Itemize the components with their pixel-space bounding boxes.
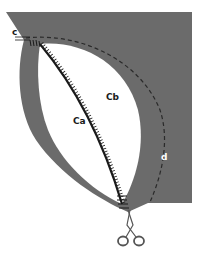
sewing-diagram — [0, 0, 199, 253]
label-d: d — [161, 153, 167, 162]
scissors-icon — [118, 210, 144, 246]
label-ca: Ca — [73, 117, 86, 126]
label-cb: Cb — [106, 93, 119, 102]
label-c: c — [12, 28, 17, 37]
